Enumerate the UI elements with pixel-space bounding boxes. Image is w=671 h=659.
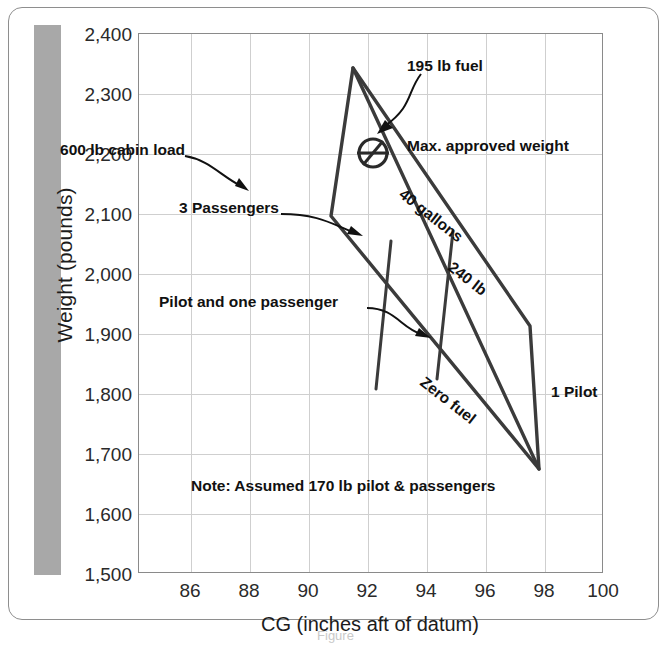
envelope-outline (331, 68, 539, 469)
annotation-three-passengers: 3 Passengers (179, 200, 279, 216)
y-tick-label: 1,500 (60, 565, 132, 584)
y-tick-label: 1,900 (60, 325, 132, 344)
x-tick-label: 90 (278, 581, 338, 600)
leader-three-passengers (281, 214, 363, 236)
x-tick-label: 96 (455, 581, 515, 600)
three-passengers-line (376, 241, 391, 389)
annotation-note: Note: Assumed 170 lb pilot & passengers (191, 478, 495, 494)
x-tick-label: 100 (573, 581, 633, 600)
y-axis-tick-labels: 2,400 2,300 2,200 2,100 2,000 1,900 1,80… (60, 33, 132, 573)
chart-page: Weight (pounds) 2,400 2,300 2,200 2,100 … (0, 0, 671, 659)
loaded-cg-marker (357, 139, 389, 167)
x-tick-label: 94 (396, 581, 456, 600)
x-tick-label: 98 (514, 581, 574, 600)
y-tick-label: 1,800 (60, 385, 132, 404)
leader-195-fuel (377, 74, 421, 134)
y-tick-label: 1,700 (60, 445, 132, 464)
y-tick-label: 1,600 (60, 505, 132, 524)
plot-area: 600 lb cabin load 195 lb fuel Max. appro… (138, 33, 603, 573)
leader-pilot-one-passenger (367, 308, 431, 338)
x-axis-tick-labels: 86 88 90 92 94 96 98 100 (138, 581, 603, 607)
annotation-195-fuel: 195 lb fuel (407, 58, 483, 74)
y-tick-label: 2,100 (60, 205, 132, 224)
annotation-pilot-one-passenger: Pilot and one passenger (159, 294, 338, 310)
leader-cabin-load (185, 156, 249, 191)
figure-caption: Figure (0, 628, 671, 643)
y-tick-label: 2,000 (60, 265, 132, 284)
annotation-max-approved-weight: Max. approved weight (407, 138, 569, 154)
y-tick-label: 2,400 (60, 25, 132, 44)
annotation-one-pilot: 1 Pilot (551, 384, 598, 400)
x-tick-label: 86 (160, 581, 220, 600)
x-tick-label: 88 (219, 581, 279, 600)
x-tick-label: 92 (337, 581, 397, 600)
y-tick-label: 2,300 (60, 85, 132, 104)
annotation-cabin-load: 600 lb cabin load (60, 142, 185, 158)
